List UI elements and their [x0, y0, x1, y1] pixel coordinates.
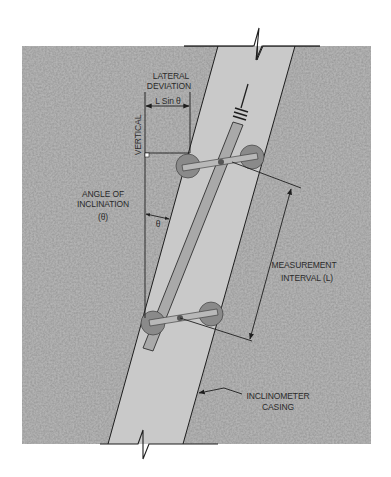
casing-label-2: CASING: [262, 402, 294, 412]
lateral-formula-label: L Sin θ: [155, 96, 181, 106]
upper-pivot: [218, 159, 224, 165]
casing-label-1: INCLINOMETER: [246, 391, 309, 401]
angle-label-3: (θ): [98, 212, 108, 222]
angle-label-1: ANGLE OF: [82, 189, 124, 199]
lateral-deviation-label-2: DEVIATION: [147, 81, 191, 91]
vertical-label: VERTICAL: [133, 114, 143, 155]
lateral-deviation-label-1: LATERAL: [153, 71, 190, 81]
measurement-interval-label-1: MEASUREMENT: [271, 260, 336, 270]
theta-label: θ: [156, 219, 161, 229]
angle-label-2: INCLINATION: [77, 199, 129, 209]
right-angle-marker: [145, 153, 149, 157]
measurement-interval-label-2: INTERVAL (L): [281, 273, 333, 283]
inclinometer-diagram: LATERAL DEVIATION L Sin θ VERTICAL ANGLE…: [0, 0, 391, 477]
